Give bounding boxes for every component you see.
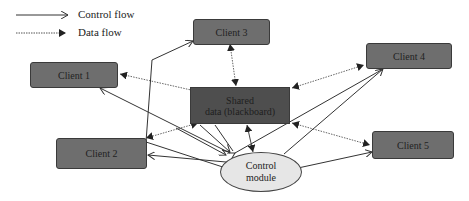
node-client-1-label: Client 1 [58, 70, 90, 81]
node-control-module: Control module [220, 152, 302, 192]
legend-data-flow-label: Data flow [78, 26, 122, 38]
control-label-line1: Control [246, 160, 277, 172]
node-client-2-label: Client 2 [86, 148, 118, 159]
control-label-line2: module [246, 172, 276, 184]
node-client-5-label: Client 5 [397, 140, 429, 151]
node-client-3-label: Client 3 [216, 27, 248, 38]
node-client-3: Client 3 [193, 19, 270, 45]
shared-label-line1: Shared [226, 95, 254, 106]
node-shared-data-blackboard: Shared data (blackboard) [190, 87, 290, 124]
shared-label-line2: data (blackboard) [205, 106, 275, 117]
node-client-2: Client 2 [56, 138, 147, 169]
node-client-1: Client 1 [30, 62, 118, 88]
node-client-4-label: Client 4 [393, 51, 425, 62]
node-client-4: Client 4 [366, 43, 452, 69]
legend-control-flow-label: Control flow [78, 8, 135, 20]
node-client-5: Client 5 [372, 131, 454, 159]
